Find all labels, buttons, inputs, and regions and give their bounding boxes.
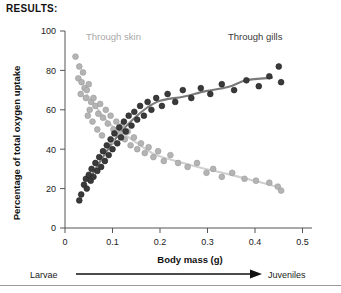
data-point	[278, 79, 284, 85]
data-point	[137, 103, 143, 109]
data-point	[114, 140, 120, 146]
footer-divider	[0, 285, 341, 286]
data-point	[84, 87, 90, 93]
results-heading: RESULTS:	[6, 3, 58, 14]
data-point	[96, 154, 102, 160]
data-point	[210, 166, 216, 172]
data-point	[80, 70, 86, 76]
x-tick-label: 0.3	[201, 237, 214, 247]
data-point	[204, 170, 210, 176]
data-point	[244, 77, 250, 83]
oxygen-uptake-chart: Percentage of total oxygen uptake 020406…	[0, 18, 341, 276]
data-point	[93, 160, 99, 166]
data-point	[149, 107, 155, 113]
data-point	[253, 178, 259, 184]
data-point	[79, 79, 85, 85]
data-point	[242, 176, 248, 182]
data-point	[94, 127, 100, 133]
series-label-through-skin: Through skin	[86, 31, 141, 42]
data-point	[219, 81, 225, 87]
data-point	[198, 85, 204, 91]
data-point	[89, 166, 95, 172]
data-points-through-skin	[73, 54, 284, 194]
data-point	[90, 119, 96, 125]
data-point	[276, 64, 282, 70]
data-point	[91, 95, 97, 101]
developmental-stage-axis: Larvae Juveniles	[0, 264, 341, 293]
data-point	[155, 148, 161, 154]
data-point	[134, 117, 140, 123]
data-point	[229, 170, 235, 176]
chart-svg: Percentage of total oxygen uptake 020406…	[0, 18, 341, 276]
y-axis-title: Percentage of total oxygen uptake	[11, 66, 22, 221]
data-point	[99, 133, 105, 139]
data-point	[134, 146, 140, 152]
x-axis-ticks: 00.10.20.30.40.5	[62, 228, 308, 247]
data-point	[85, 113, 91, 119]
data-point	[83, 95, 89, 101]
x-tick-label: 0.5	[296, 237, 309, 247]
data-point	[86, 81, 92, 87]
data-point	[153, 95, 159, 101]
x-tick-label: 0	[62, 237, 67, 247]
data-point	[78, 192, 84, 198]
data-point	[76, 64, 82, 70]
data-point	[116, 125, 122, 131]
data-point	[131, 135, 137, 141]
data-point	[185, 164, 191, 170]
data-point	[266, 73, 272, 79]
data-point	[113, 119, 119, 125]
data-point	[146, 144, 152, 150]
data-point	[105, 121, 111, 127]
data-point	[141, 113, 147, 119]
data-point	[256, 83, 262, 89]
data-point	[278, 188, 284, 194]
stage-label-larvae: Larvae	[30, 270, 58, 280]
data-point	[118, 135, 124, 141]
data-point	[91, 174, 97, 180]
data-point	[131, 109, 137, 115]
data-point	[142, 150, 148, 156]
data-point	[145, 99, 151, 105]
data-point	[84, 186, 90, 192]
data-point	[188, 95, 194, 101]
data-point	[108, 136, 114, 142]
y-tick-label: 40	[46, 145, 56, 155]
y-tick-label: 60	[46, 105, 56, 115]
stage-arrow-head	[250, 270, 262, 279]
stage-label-juveniles: Juveniles	[268, 270, 306, 280]
data-point	[165, 91, 171, 97]
data-point	[219, 174, 225, 180]
data-point	[76, 198, 82, 204]
data-point	[95, 111, 101, 117]
data-point	[123, 129, 129, 135]
x-tick-label: 0.2	[154, 237, 167, 247]
data-points-through-gills	[76, 64, 284, 204]
x-tick-label: 0.4	[249, 237, 262, 247]
data-point	[161, 158, 167, 164]
data-point	[194, 160, 200, 166]
data-point	[87, 107, 93, 113]
figure-page: RESULTS: Percentage of total oxygen upta…	[0, 0, 341, 293]
data-point	[151, 154, 157, 160]
y-tick-label: 80	[46, 66, 56, 76]
y-axis-ticks: 020406080100	[41, 26, 65, 233]
data-point	[73, 54, 79, 60]
data-point	[106, 152, 112, 158]
data-point	[110, 146, 116, 152]
data-point	[121, 119, 127, 125]
y-tick-label: 20	[46, 184, 56, 194]
data-point	[172, 99, 178, 105]
data-point	[78, 91, 84, 97]
y-tick-label: 0	[51, 223, 56, 233]
data-point	[138, 140, 144, 146]
data-point	[128, 142, 134, 148]
data-point	[180, 87, 186, 93]
x-tick-label: 0.1	[106, 237, 119, 247]
data-point	[108, 113, 114, 119]
data-point	[112, 131, 118, 137]
data-point	[100, 115, 106, 121]
data-point	[168, 152, 174, 158]
y-tick-label: 100	[41, 26, 56, 36]
data-point	[103, 107, 109, 113]
